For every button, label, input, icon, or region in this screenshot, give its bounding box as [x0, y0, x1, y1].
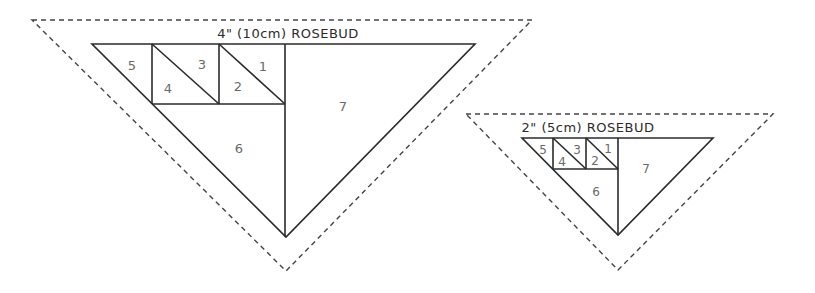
small-piece-2: 2 — [591, 154, 599, 168]
large-piece-4: 4 — [164, 81, 172, 96]
small-piece-1: 1 — [604, 142, 612, 156]
large-piece-7: 7 — [339, 99, 347, 114]
rosebud-diagrams: 4" (10cm) ROSEBUD 1 2 3 4 5 6 7 2" (5cm)… — [0, 0, 815, 293]
small-piece-4: 4 — [558, 155, 566, 169]
small-piece-7: 7 — [642, 162, 650, 176]
large-rosebud-title: 4" (10cm) ROSEBUD — [217, 26, 359, 41]
large-diagonal-1-2 — [219, 44, 285, 104]
large-piece-1: 1 — [259, 59, 267, 74]
large-piece-5: 5 — [128, 58, 136, 73]
large-diagonal-3-4 — [152, 44, 219, 104]
small-piece-6: 6 — [592, 185, 600, 199]
small-rosebud-diagram: 2" (5cm) ROSEBUD 1 2 3 4 5 6 7 — [466, 114, 773, 270]
small-piece-3: 3 — [573, 143, 581, 157]
small-piece-5: 5 — [539, 143, 547, 157]
large-block-outline — [92, 44, 475, 237]
large-piece-2: 2 — [234, 79, 242, 94]
large-piece-3: 3 — [198, 57, 206, 72]
small-rosebud-title: 2" (5cm) ROSEBUD — [522, 120, 655, 135]
large-piece-6: 6 — [235, 141, 243, 156]
large-rosebud-diagram: 4" (10cm) ROSEBUD 1 2 3 4 5 6 7 — [32, 20, 532, 271]
